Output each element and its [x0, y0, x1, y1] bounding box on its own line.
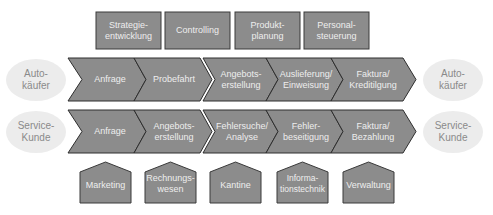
- support-bottom-label-1: Marketing: [80, 168, 131, 203]
- customer-label-left-row2: Service- Kunde: [6, 111, 66, 153]
- support-bottom-label-2: Rechnungs- wesen: [145, 166, 196, 201]
- process-step-row1-3: Angebots- erstellung: [212, 58, 270, 101]
- process-step-row2-5: Faktura/ Bezahlung: [340, 110, 406, 153]
- process-step-row1-1: Anfrage: [82, 58, 138, 101]
- support-top-label-1: Strategie- entwicklung: [96, 12, 161, 49]
- customer-label-left-row1: Auto- käufer: [6, 59, 66, 101]
- process-step-row1-2: Probefahrt: [144, 58, 204, 101]
- customer-label-right-row2: Service- Kunde: [423, 111, 483, 153]
- process-step-row2-2: Angebots- erstellung: [144, 110, 204, 153]
- value-chain-diagram: Auto- käufer Service- Kunde Auto- käufer…: [0, 0, 493, 215]
- process-step-row1-5: Faktura/ Kreditilgung: [340, 58, 406, 101]
- process-step-row2-3: Fehlersuche/ Analyse: [212, 110, 272, 153]
- process-step-row1-4: Auslieferung/ Einweisung: [274, 58, 338, 101]
- process-step-row2-4: Fehler- beseitigung: [274, 110, 338, 153]
- support-top-label-3: Produkt- planung: [235, 12, 300, 49]
- support-bottom-label-4: Informa- tionstechnik: [275, 166, 330, 201]
- customer-label-right-row1: Auto- käufer: [423, 59, 483, 101]
- support-bottom-label-3: Kantine: [210, 168, 261, 203]
- process-step-row2-1: Anfrage: [82, 110, 138, 153]
- support-top-label-2: Controlling: [165, 12, 230, 49]
- support-top-label-4: Personal- steuerung: [304, 12, 369, 49]
- support-bottom-label-5: Verwaltung: [343, 168, 394, 203]
